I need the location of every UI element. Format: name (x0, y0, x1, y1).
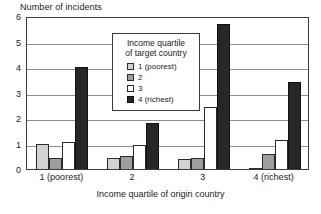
bar (178, 159, 191, 169)
bar-group (249, 18, 301, 169)
legend-swatch (127, 96, 134, 103)
bar (262, 154, 275, 169)
legend-title-line-1: Income quartile (118, 38, 194, 48)
x-axis-tick-label: 3 (200, 172, 205, 183)
legend-item: 3 (127, 83, 194, 94)
legend-swatch (127, 85, 134, 92)
bar (36, 144, 49, 170)
y-axis-tick-label: 4 (16, 64, 21, 73)
bar (191, 158, 204, 169)
y-axis-tick-label: 0 (16, 166, 21, 175)
legend-swatch (127, 63, 134, 70)
y-axis-tick-label: 6 (16, 13, 21, 22)
y-axis-tick-label: 3 (16, 89, 21, 98)
bar-chart: Number of incidents 0123456 1 (poorest)2… (0, 0, 321, 214)
bar (288, 82, 301, 169)
y-axis-tick-label: 5 (16, 38, 21, 47)
bar (146, 123, 159, 169)
bar (49, 158, 62, 169)
bar (120, 156, 133, 169)
legend-item: 4 (richest) (127, 94, 194, 105)
legend-item: 1 (poorest) (127, 61, 194, 72)
x-axis-title: Income quartile of origin country (0, 189, 321, 199)
bar (75, 67, 88, 169)
bar-group (36, 18, 88, 169)
legend-title-line-2: of target country (118, 48, 194, 58)
legend-item: 2 (127, 72, 194, 83)
legend-label: 3 (138, 84, 142, 93)
x-axis-tick-labels: 1 (poorest)234 (richest) (26, 172, 309, 186)
legend-swatch (127, 74, 134, 81)
y-axis-title: Number of incidents (20, 2, 102, 12)
legend-label: 2 (138, 73, 142, 82)
legend-label: 1 (poorest) (138, 62, 177, 71)
legend-items: 1 (poorest)234 (richest) (118, 61, 194, 105)
y-axis-tick-label: 2 (16, 115, 21, 124)
x-axis-tick-label: 4 (richest) (254, 172, 294, 183)
bar (217, 24, 230, 169)
x-axis-tick-label: 2 (130, 172, 135, 183)
bar (275, 140, 288, 169)
y-axis-tick-labels: 0123456 (0, 17, 24, 170)
y-axis-tick-label: 1 (16, 140, 21, 149)
bar (133, 145, 146, 169)
legend-title: Income quartile of target country (118, 38, 194, 58)
x-axis-tick-label: 1 (poorest) (40, 172, 84, 183)
legend-label: 4 (richest) (138, 95, 174, 104)
bar (249, 168, 262, 169)
bar (107, 158, 120, 169)
bar (204, 107, 217, 169)
bar (62, 142, 75, 169)
legend: Income quartile of target country 1 (poo… (112, 33, 200, 111)
